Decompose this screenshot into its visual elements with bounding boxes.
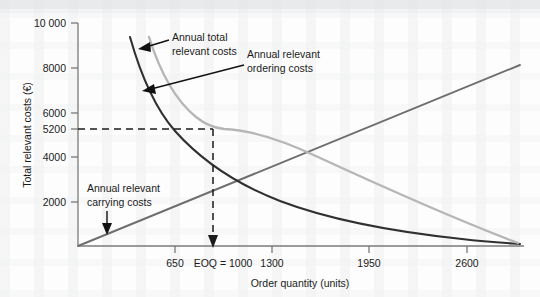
x-tick-label-650: 650 <box>166 257 184 269</box>
y-tick-label-4000: 4000 <box>43 151 67 163</box>
annotation-total-relevant-costs: Annual total relevant costs <box>138 31 237 57</box>
annotation-carrying-line1: Annual relevant <box>87 182 160 194</box>
carrying-cost-line <box>78 65 520 246</box>
eoq-cost-chart: 10 000 8000 6000 5200 4000 2000 650 EOQ … <box>0 0 540 297</box>
y-tick-label-8000: 8000 <box>43 62 67 74</box>
annotation-carrying-line2: carrying costs <box>87 196 152 208</box>
annotation-ordering-line2: ordering costs <box>247 62 313 74</box>
x-tick-label-2600: 2600 <box>455 257 479 269</box>
chart-page: 10 000 8000 6000 5200 4000 2000 650 EOQ … <box>0 0 540 297</box>
y-tick-label-2000: 2000 <box>43 196 67 208</box>
ordering-cost-curve <box>130 37 520 244</box>
eoq-axis-label: EOQ = 1000 <box>194 257 253 269</box>
y-tick-label-6000: 6000 <box>43 107 67 119</box>
annotation-ordering-line1: Annual relevant <box>247 48 320 60</box>
annotation-total-line2: relevant costs <box>172 45 237 57</box>
y-tick-label-5200: 5200 <box>43 123 67 135</box>
annotation-ordering-arrow-icon <box>142 84 156 94</box>
annotation-total-arrow-icon <box>138 42 151 52</box>
x-axis-ticks: 650 EOQ = 1000 1300 1950 2600 <box>166 246 479 269</box>
total-cost-curve <box>149 37 518 243</box>
x-tick-label-1300: 1300 <box>260 257 284 269</box>
y-axis-title: Total relevant costs (€) <box>21 82 33 188</box>
x-tick-label-1950: 1950 <box>357 257 381 269</box>
y-axis-ticks: 10 000 8000 6000 5200 4000 2000 <box>34 17 78 208</box>
x-axis-title: Order quantity (units) <box>251 277 350 289</box>
y-tick-label-10000: 10 000 <box>34 17 66 29</box>
annotation-total-line1: Annual total <box>172 31 227 43</box>
